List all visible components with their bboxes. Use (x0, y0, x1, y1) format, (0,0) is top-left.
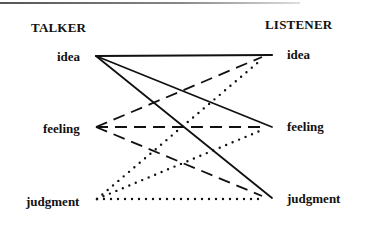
edge-judgment-feeling (97, 130, 262, 199)
edge-judgment-idea (97, 59, 262, 199)
edge-feeling-idea (96, 57, 262, 127)
edge-feeling-judgment (96, 127, 262, 196)
connection-lines (0, 0, 367, 231)
edge-idea-idea (96, 55, 272, 56)
